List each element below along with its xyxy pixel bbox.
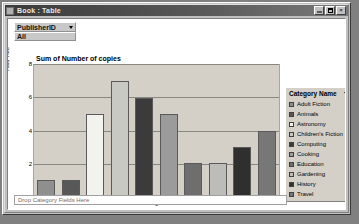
legend-item-label: Children's Fiction	[297, 131, 343, 137]
bar[interactable]	[62, 180, 80, 196]
legend-item-label: Astronomy	[297, 121, 326, 127]
y-axis-tick-label: 2	[29, 161, 32, 167]
title-bar[interactable]: Book : Table ×	[5, 5, 348, 16]
close-icon: ×	[337, 7, 345, 14]
legend-swatch-icon	[289, 192, 294, 197]
filter-zone: PublisherID All	[14, 22, 76, 41]
legend-item-label: Animals	[297, 111, 318, 117]
close-button[interactable]: ×	[336, 6, 346, 15]
legend-header-label: Category Name	[289, 90, 342, 97]
legend-item[interactable]: Travel	[289, 189, 346, 199]
legend-item-label: Education	[297, 161, 324, 167]
window-menu-icon[interactable]	[6, 7, 14, 15]
bar-series	[34, 65, 279, 196]
client-area: PublisherID All Sum of Number of copies …	[5, 17, 348, 212]
legend-panel: Category Name Adult FictionAnimalsAstron…	[285, 87, 346, 202]
y-axis-ticks: 86420	[22, 64, 32, 197]
filter-field-label: PublisherID	[17, 24, 67, 31]
legend-swatch-icon	[289, 172, 294, 177]
legend-header[interactable]: Category Name	[287, 89, 346, 99]
legend-item[interactable]: Animals	[289, 109, 346, 119]
legend-swatch-icon	[289, 132, 294, 137]
y-axis-tick-label: 4	[29, 128, 32, 134]
window-controls: ×	[314, 6, 346, 15]
legend-item[interactable]: Adult Fiction	[289, 99, 346, 109]
drop-category-fields-zone[interactable]: Drop Category Fields Here	[14, 195, 287, 205]
chevron-down-icon[interactable]	[344, 92, 346, 95]
bar[interactable]	[160, 114, 178, 196]
legend-item[interactable]: Children's Fiction	[289, 129, 346, 139]
legend-item-label: Adult Fiction	[297, 101, 330, 107]
legend-item-label: History	[297, 181, 316, 187]
plot-wrapper	[33, 64, 280, 197]
bar[interactable]	[233, 147, 251, 196]
bar[interactable]	[209, 163, 227, 196]
pivot-chart-sheet: PublisherID All Sum of Number of copies …	[7, 18, 346, 210]
bar[interactable]	[86, 114, 104, 196]
legend-item-label: Computing	[297, 141, 326, 147]
bar[interactable]	[135, 98, 153, 196]
filter-value[interactable]: All	[14, 32, 76, 41]
legend-swatch-icon	[289, 122, 294, 127]
legend-item[interactable]: Astronomy	[289, 119, 346, 129]
window-title: Book : Table	[17, 7, 314, 14]
legend-item-label: Gardening	[297, 171, 325, 177]
access-window: Book : Table × PublisherID All Sum of Nu…	[2, 2, 351, 215]
bar[interactable]	[184, 163, 202, 196]
legend-item[interactable]: Gardening	[289, 169, 346, 179]
chevron-down-icon[interactable]	[69, 26, 73, 29]
legend-item[interactable]: History	[289, 179, 346, 189]
bar[interactable]	[258, 131, 276, 197]
legend-item[interactable]: Cooking	[289, 149, 346, 159]
legend-items: Adult FictionAnimalsAstronomyChildren's …	[287, 99, 346, 199]
legend-item[interactable]: Education	[289, 159, 346, 169]
legend-item-label: Cooking	[297, 151, 319, 157]
minimize-button[interactable]	[314, 6, 324, 15]
legend-swatch-icon	[289, 152, 294, 157]
drop-zone-placeholder: Drop Category Fields Here	[18, 197, 89, 203]
y-axis-tick-label: 8	[29, 61, 32, 67]
filter-field-publisherid[interactable]: PublisherID	[14, 22, 76, 32]
chart-title: Sum of Number of copies	[36, 55, 121, 62]
legend-swatch-icon	[289, 112, 294, 117]
maximize-button[interactable]	[325, 6, 335, 15]
legend-swatch-icon	[289, 162, 294, 167]
y-axis-tick-label: 6	[29, 94, 32, 100]
bar[interactable]	[111, 81, 129, 196]
legend-item[interactable]: Computing	[289, 139, 346, 149]
bar[interactable]	[37, 180, 55, 196]
legend-swatch-icon	[289, 142, 294, 147]
legend-swatch-icon	[289, 102, 294, 107]
legend-item-label: Travel	[297, 191, 313, 197]
legend-swatch-icon	[289, 182, 294, 187]
y-axis-title: Axis Title	[7, 47, 10, 71]
